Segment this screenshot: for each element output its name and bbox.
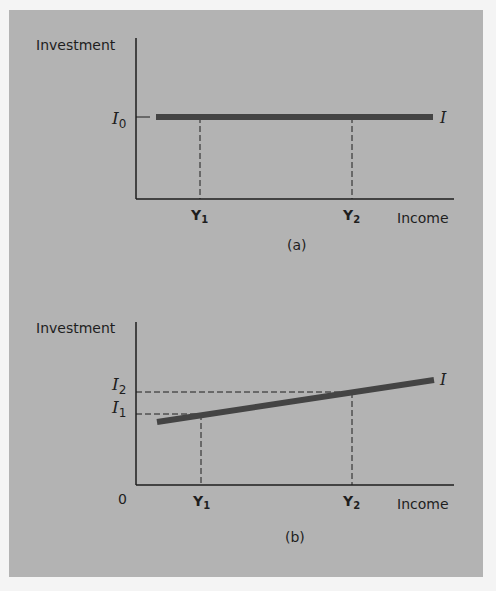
chart-b-i1-label: I1 [111,397,126,420]
chart-b-i2-label: I2 [111,374,126,397]
chart-b-y-axis-label: Investment [36,320,116,336]
chart-a: Investment I0 I Y1 Y2 Income (a) [36,37,454,253]
chart-b-y1-label: Y1 [192,493,210,511]
chart-a-caption: (a) [287,237,307,253]
chart-a-y-axis-label: Investment [36,37,116,53]
chart-b-y2-label: Y2 [342,493,360,511]
chart-b-caption: (b) [285,529,305,545]
chart-a-i0-label: I0 [111,108,126,131]
chart-b-curve-label: I [439,370,447,389]
chart-b-x-axis-label: Income [397,496,449,512]
chart-b-origin-label: 0 [118,491,127,507]
chart-b-investment-line [157,380,434,422]
chart-a-x-axis-label: Income [397,210,449,226]
chart-a-y2-label: Y2 [342,207,360,225]
chart-b: Investment 0 I2 I1 I Y1 Y2 Income (b) [36,320,454,545]
chart-a-curve-label: I [439,108,447,127]
figure: Investment I0 I Y1 Y2 Income (a) Investm… [0,0,496,591]
chart-a-y1-label: Y1 [190,207,208,225]
